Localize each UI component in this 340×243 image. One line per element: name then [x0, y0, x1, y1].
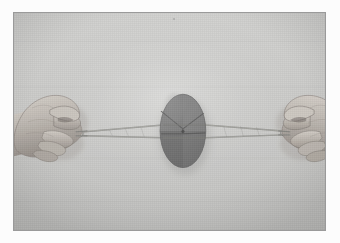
photo-scene — [14, 13, 325, 230]
photo-haze — [14, 13, 325, 230]
photo-caption — [13, 234, 326, 243]
page-root — [0, 0, 340, 243]
photo-canvas — [14, 13, 325, 230]
photograph — [13, 12, 326, 231]
